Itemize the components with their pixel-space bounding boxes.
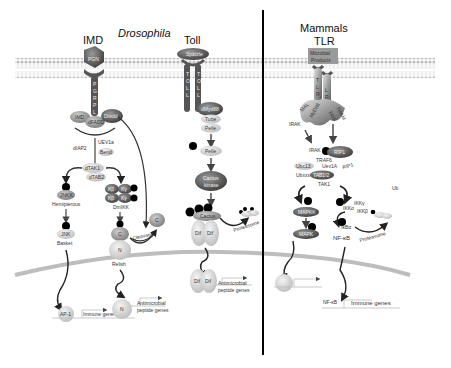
svg-text:kinase: kinase: [204, 182, 219, 188]
svg-text:JNK: JNK: [61, 231, 71, 237]
svg-text:Cleavage: Cleavage: [132, 231, 154, 241]
svg-text:Pelle: Pelle: [205, 125, 216, 131]
drosophila-title: Drosophila: [118, 27, 171, 39]
svg-text:C: C: [118, 231, 122, 237]
cactus-fragments: [239, 207, 259, 217]
svg-text:Dif: Dif: [194, 278, 201, 284]
tlr-title: TLR: [314, 35, 335, 47]
svg-text:IMD: IMD: [75, 114, 85, 120]
svg-text:T: T: [186, 71, 189, 77]
svg-text:dMyd88: dMyd88: [201, 106, 219, 112]
svg-text:T: T: [197, 71, 200, 77]
svg-text:Dredd: Dredd: [104, 113, 118, 119]
svg-text:L: L: [197, 85, 200, 91]
svg-text:JNKK: JNKK: [60, 192, 73, 198]
svg-text:MAPKK: MAPKK: [298, 209, 316, 215]
svg-text:Kβ: Kβ: [108, 195, 114, 201]
imd-title: IMD: [83, 34, 103, 46]
svg-text:Ub: Ub: [392, 185, 399, 191]
svg-text:DmIKK: DmIKK: [113, 204, 130, 210]
ikb-fragments: [371, 210, 392, 219]
svg-text:Kβ: Kβ: [108, 186, 114, 192]
svg-text:N: N: [120, 306, 124, 312]
svg-text:O: O: [197, 78, 201, 84]
svg-text:peptide genes: peptide genes: [218, 287, 250, 293]
svg-text:dFADD: dFADD: [88, 119, 105, 125]
svg-text:Cactus: Cactus: [203, 175, 219, 181]
svg-text:PGN: PGN: [88, 56, 99, 62]
svg-text:NF-κB: NF-κB: [333, 235, 350, 241]
svg-text:RIP1: RIP1: [334, 149, 345, 155]
phospho-dot: [62, 222, 70, 230]
svg-text:Dif: Dif: [207, 230, 214, 236]
svg-text:MAPK: MAPK: [299, 231, 314, 237]
svg-text:TAK1: TAK1: [318, 181, 330, 187]
svg-text:IKKγ: IKKγ: [354, 200, 365, 206]
svg-text:G: G: [93, 88, 97, 94]
ap1-mammal-factor: [275, 274, 293, 292]
svg-text:Products: Products: [311, 57, 331, 63]
svg-text:peptide genes: peptide genes: [137, 307, 169, 313]
toll-pathway: Spätzle T O L L T O L L dMyd88 Tube Pell…: [177, 48, 260, 293]
svg-text:Kγ: Kγ: [121, 186, 127, 192]
svg-text:IRAK: IRAK: [289, 121, 301, 127]
svg-text:dIAP2: dIAP2: [73, 145, 87, 151]
svg-text:NF-κB: NF-κB: [323, 299, 338, 305]
svg-text:Immune genes: Immune genes: [83, 311, 117, 317]
svg-text:R: R: [316, 91, 320, 97]
svg-text:L: L: [316, 84, 319, 90]
svg-text:Proteasome: Proteasome: [232, 219, 260, 233]
imd-pathway: PGN P G R P L IMD dFADD Dredd dIAP2 UEV1…: [52, 46, 169, 322]
svg-text:Dif: Dif: [205, 278, 212, 284]
svg-text:IKKβ: IKKβ: [357, 208, 368, 214]
svg-text:Microbial: Microbial: [310, 50, 330, 56]
svg-text:L: L: [186, 85, 189, 91]
svg-text:RIP1: RIP1: [342, 161, 355, 170]
svg-text:IκBα: IκBα: [341, 224, 351, 230]
svg-text:C: C: [155, 217, 159, 223]
svg-text:R: R: [93, 95, 97, 101]
svg-text:Bend: Bend: [100, 149, 112, 155]
svg-text:Tube: Tube: [205, 116, 216, 122]
svg-text:IKKα: IKKα: [343, 205, 354, 211]
cactus-kinase: [195, 171, 227, 191]
svg-text:N: N: [118, 247, 122, 253]
svg-text:Pelle: Pelle: [205, 148, 216, 154]
svg-text:Immune genes: Immune genes: [351, 300, 391, 306]
svg-text:Basket: Basket: [57, 240, 73, 246]
svg-text:AP-1: AP-1: [60, 311, 71, 317]
toll-title: Toll: [184, 34, 201, 46]
svg-text:O: O: [186, 78, 190, 84]
svg-text:dTAB2: dTAB2: [89, 174, 104, 180]
svg-text:Hemipterous: Hemipterous: [52, 201, 81, 207]
svg-text:TAB1/2: TAB1/2: [313, 172, 330, 178]
mammals-title: Mammals: [300, 22, 348, 34]
immune-signaling-diagram: IMD Drosophila Toll Mammals TLR PGN P G …: [0, 0, 451, 368]
svg-text:Antimicrobial: Antimicrobial: [137, 300, 166, 306]
svg-text:Spätzle: Spätzle: [186, 51, 203, 57]
svg-text:L: L: [197, 92, 200, 98]
svg-text:Relish: Relish: [112, 261, 126, 267]
svg-text:Dif: Dif: [195, 230, 202, 236]
svg-text:UEV1a: UEV1a: [98, 139, 114, 145]
svg-text:Antimicrobial: Antimicrobial: [218, 280, 247, 286]
svg-text:Uev1A: Uev1A: [322, 163, 338, 169]
phospho-dot: [62, 183, 70, 191]
svg-text:T: T: [316, 77, 319, 83]
svg-text:L: L: [325, 87, 328, 93]
cell-membrane: [15, 58, 435, 78]
svg-text:L: L: [93, 109, 96, 115]
svg-text:Cactus: Cactus: [200, 213, 216, 219]
svg-text:Ubc13: Ubc13: [296, 163, 311, 169]
svg-text:L: L: [186, 92, 189, 98]
svg-text:IRAK: IRAK: [309, 147, 321, 153]
svg-text:Kγ: Kγ: [121, 195, 127, 201]
svg-text:dTAK1: dTAK1: [85, 165, 100, 171]
svg-text:Ubxxx: Ubxxx: [296, 172, 310, 178]
